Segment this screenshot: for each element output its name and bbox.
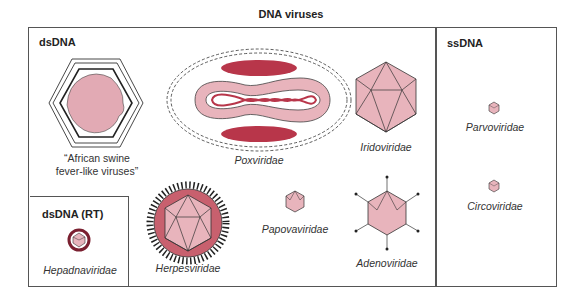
circovirus-virion-icon xyxy=(0,0,582,297)
circoviridae-label: Circoviridae xyxy=(459,200,531,212)
